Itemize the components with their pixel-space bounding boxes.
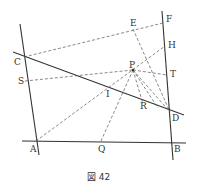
label-f: F (166, 15, 172, 24)
label-a: A (30, 145, 37, 154)
line-ab (22, 141, 186, 143)
label-s: S (18, 77, 24, 86)
dash-s-p (25, 70, 133, 81)
dash-p-d (133, 70, 170, 112)
dash-p-t (133, 70, 167, 75)
left-line (20, 24, 39, 155)
dash-c-f (24, 23, 163, 57)
label-r: R (140, 102, 147, 111)
label-d: D (172, 114, 179, 123)
label-q: Q (98, 145, 105, 154)
label-i: I (106, 90, 110, 99)
label-h: H (168, 41, 176, 50)
dash-a-h (36, 46, 165, 141)
geometry-figure (0, 0, 197, 186)
label-p: P (129, 61, 135, 70)
label-t: T (170, 70, 176, 79)
line-cd (13, 52, 184, 115)
label-c: C (14, 58, 21, 67)
dash-p-q (101, 70, 133, 141)
label-e: E (130, 19, 137, 28)
label-b: B (174, 145, 181, 154)
figure-caption: 図 42 (0, 170, 197, 183)
dash-p-r (133, 70, 143, 104)
right-line (162, 11, 173, 160)
